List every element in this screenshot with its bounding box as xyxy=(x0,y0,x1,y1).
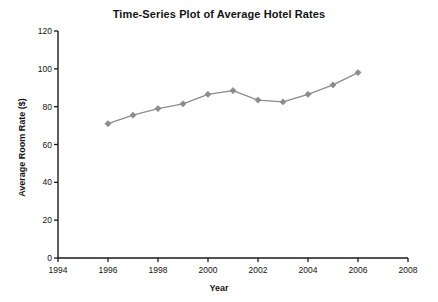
axes-group xyxy=(54,31,408,262)
data-point-marker xyxy=(205,91,211,97)
y-axis-tick-label: 40 xyxy=(18,177,52,187)
x-axis-tick-label: 2000 xyxy=(188,265,228,275)
data-point-marker xyxy=(305,91,311,97)
y-axis-tick-label: 100 xyxy=(18,64,52,74)
data-point-marker xyxy=(130,112,136,118)
data-point-marker xyxy=(280,99,286,105)
y-axis-tick-label: 60 xyxy=(18,140,52,150)
x-axis-tick-label: 1996 xyxy=(88,265,128,275)
chart-container: Time-Series Plot of Average Hotel Rates … xyxy=(0,0,438,302)
x-axis-tick-label: 1994 xyxy=(38,265,78,275)
data-point-marker xyxy=(155,105,161,111)
y-axis-tick-label: 0 xyxy=(18,253,52,263)
data-point-marker xyxy=(105,121,111,127)
data-point-markers xyxy=(105,70,361,127)
x-axis-tick-label: 2006 xyxy=(338,265,378,275)
data-point-marker xyxy=(180,101,186,107)
data-point-marker xyxy=(230,87,236,93)
data-point-marker xyxy=(355,70,361,76)
data-series-line xyxy=(108,73,358,124)
x-axis-tick-label: 2008 xyxy=(388,265,428,275)
series-line xyxy=(108,73,358,124)
x-axis-tick-label: 2002 xyxy=(238,265,278,275)
plot-area xyxy=(0,0,438,302)
y-axis-tick-label: 20 xyxy=(18,215,52,225)
data-point-marker xyxy=(255,97,261,103)
x-axis-tick-label: 1998 xyxy=(138,265,178,275)
y-axis-tick-label: 80 xyxy=(18,102,52,112)
y-axis-tick-label: 120 xyxy=(18,26,52,36)
x-axis-tick-label: 2004 xyxy=(288,265,328,275)
data-point-marker xyxy=(330,82,336,88)
